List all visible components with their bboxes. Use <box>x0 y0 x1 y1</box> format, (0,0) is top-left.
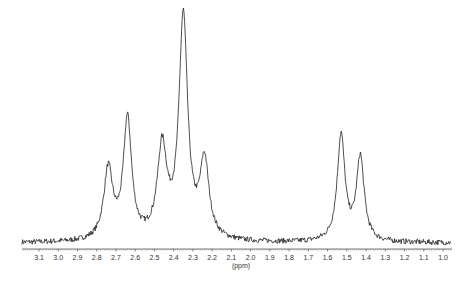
x-tick-label: 2.0 <box>246 254 256 261</box>
spectrum-line <box>22 8 450 245</box>
x-tick-label: 2.4 <box>169 254 179 261</box>
nmr-spectrum-chart: 3.13.02.92.82.72.62.52.42.32.22.12.01.91… <box>0 0 471 281</box>
x-tick-label: 1.7 <box>303 254 313 261</box>
x-tick-label: 1.0 <box>438 254 448 261</box>
x-tick-label: 2.1 <box>227 254 237 261</box>
x-tick-label: 1.8 <box>284 254 294 261</box>
x-tick-label: 1.4 <box>361 254 371 261</box>
x-tick-label: 1.2 <box>400 254 410 261</box>
x-tick-label: 1.6 <box>323 254 333 261</box>
x-tick-label: 1.5 <box>342 254 352 261</box>
plot-area <box>22 8 450 245</box>
x-tick-label: 2.8 <box>92 254 102 261</box>
x-axis-label: (ppm) <box>232 262 250 270</box>
x-tick-label: 1.3 <box>380 254 390 261</box>
x-tick-label: 2.7 <box>111 254 121 261</box>
x-tick-label: 2.9 <box>73 254 83 261</box>
x-tick-label: 1.1 <box>419 254 429 261</box>
x-tick-label: 2.2 <box>207 254 217 261</box>
x-tick-label: 3.1 <box>34 254 44 261</box>
x-tick-label: 2.6 <box>130 254 140 261</box>
x-axis: 3.13.02.92.82.72.62.52.42.32.22.12.01.91… <box>22 249 452 261</box>
x-tick-label: 1.9 <box>265 254 275 261</box>
x-tick-label: 2.5 <box>150 254 160 261</box>
x-tick-label: 2.3 <box>188 254 198 261</box>
x-tick-label: 3.0 <box>53 254 63 261</box>
